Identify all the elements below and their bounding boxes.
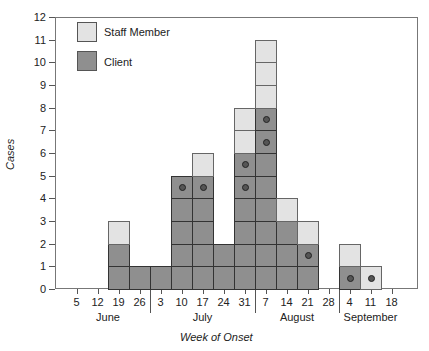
y-tick [49, 40, 55, 41]
y-tick [49, 85, 55, 86]
staff-case-cell [297, 221, 319, 245]
client-case-cell [276, 266, 298, 290]
client-case-cell [150, 266, 172, 290]
client-case-cell [234, 221, 256, 245]
legend-staff-swatch [77, 22, 97, 42]
y-tick [49, 176, 55, 177]
client-case-cell [129, 266, 151, 290]
marked-case-dot [200, 184, 207, 191]
client-case-cell [171, 266, 193, 290]
y-tick-label: 6 [30, 147, 46, 159]
y-tick [49, 244, 55, 245]
client-case-cell [171, 221, 193, 245]
x-tick [77, 289, 78, 294]
month-label: July [163, 311, 243, 323]
client-case-cell [276, 221, 298, 245]
y-tick-label: 5 [30, 170, 46, 182]
staff-case-cell [276, 198, 298, 222]
marked-case-dot [263, 139, 270, 146]
month-divider [339, 289, 340, 313]
month-divider [150, 289, 151, 313]
client-case-cell [255, 266, 277, 290]
client-case-cell [192, 198, 214, 222]
y-tick-label: 8 [30, 102, 46, 114]
y-tick-label: 2 [30, 238, 46, 250]
staff-case-cell [255, 85, 277, 109]
y-tick-label: 0 [30, 283, 46, 295]
staff-case-cell [192, 153, 214, 177]
marked-case-dot [179, 184, 186, 191]
client-case-cell [234, 198, 256, 222]
marked-case-dot [242, 161, 249, 168]
y-tick [49, 108, 55, 109]
staff-case-cell [108, 221, 130, 245]
staff-case-cell [234, 108, 256, 132]
y-axis-title: Cases [4, 139, 16, 170]
y-tick [49, 130, 55, 131]
client-case-cell [192, 221, 214, 245]
month-label: June [68, 311, 148, 323]
client-case-cell [255, 153, 277, 177]
client-case-cell [171, 198, 193, 222]
client-case-cell [255, 221, 277, 245]
y-tick-label: 3 [30, 215, 46, 227]
client-case-cell [255, 244, 277, 268]
x-tick [329, 289, 330, 294]
client-case-cell [192, 266, 214, 290]
month-label: September [331, 311, 411, 323]
staff-case-cell [339, 244, 361, 268]
client-case-cell [108, 266, 130, 290]
y-tick [49, 198, 55, 199]
marked-case-dot [368, 275, 375, 282]
client-case-cell [213, 244, 235, 268]
client-case-cell [192, 244, 214, 268]
client-case-cell [171, 244, 193, 268]
legend-client-label: Client [104, 56, 132, 68]
legend-client-swatch [77, 51, 97, 71]
legend-staff-label: Staff Member [104, 26, 170, 38]
client-case-cell [255, 198, 277, 222]
month-divider [255, 289, 256, 313]
x-tick-label: 18 [380, 296, 404, 308]
y-tick-label: 12 [30, 11, 46, 23]
marked-case-dot [263, 116, 270, 123]
month-label: August [257, 311, 337, 323]
y-tick [49, 62, 55, 63]
marked-case-dot [305, 252, 312, 259]
client-case-cell [234, 244, 256, 268]
y-tick [49, 221, 55, 222]
marked-case-dot [242, 184, 249, 191]
client-case-cell [255, 176, 277, 200]
x-axis-title: Week of Onset [180, 331, 253, 343]
y-tick-label: 7 [30, 124, 46, 136]
y-tick-label: 11 [30, 34, 46, 46]
staff-case-cell [255, 62, 277, 86]
client-case-cell [276, 244, 298, 268]
y-tick-label: 10 [30, 56, 46, 68]
marked-case-dot [347, 275, 354, 282]
client-case-cell [297, 266, 319, 290]
client-case-cell [108, 244, 130, 268]
x-tick [98, 289, 99, 294]
y-tick-label: 1 [30, 260, 46, 272]
y-tick-label: 9 [30, 79, 46, 91]
client-case-cell [234, 266, 256, 290]
staff-case-cell [234, 130, 256, 154]
staff-case-cell [255, 40, 277, 64]
client-case-cell [213, 266, 235, 290]
x-tick [392, 289, 393, 294]
y-tick-label: 4 [30, 192, 46, 204]
y-tick [49, 17, 55, 18]
y-tick [49, 153, 55, 154]
y-tick [49, 289, 55, 290]
y-tick [49, 266, 55, 267]
